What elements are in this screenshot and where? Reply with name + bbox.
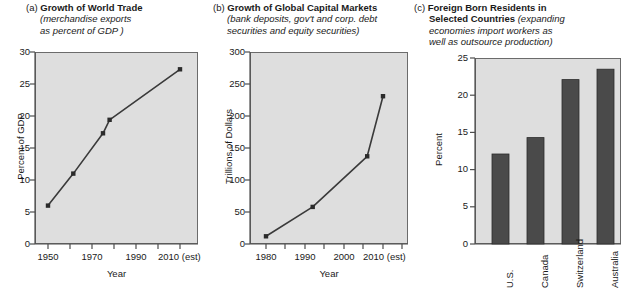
- panel-growth-of-global-capital-markets: (b) Growth of Global Capital Markets (ba…: [205, 0, 410, 288]
- panel-a-series-line: [48, 69, 180, 205]
- panel-b-series-markers: [264, 94, 385, 239]
- bar-label-canada: Canada: [539, 255, 550, 288]
- bar-label-switzerland: Switzerland: [574, 239, 585, 288]
- bar-us: [492, 154, 509, 244]
- bar-australia: [597, 69, 614, 244]
- panel-b-svg: [205, 0, 410, 288]
- bar-switzerland: [562, 80, 579, 244]
- panel-a-series-markers: [46, 67, 182, 208]
- bar-label-us: U.S.: [504, 270, 515, 288]
- panel-b-series-line: [266, 96, 383, 236]
- bar-label-australia: Australia: [609, 251, 620, 288]
- panel-foreign-born-residents: (c) Foreign Born Residents in Selected C…: [410, 0, 621, 288]
- panel-growth-of-world-trade: (a) Growth of World Trade (merchandise e…: [0, 0, 205, 288]
- panel-a-svg: [0, 0, 205, 288]
- panel-c-svg: [410, 0, 621, 288]
- panel-c-bars: [492, 69, 614, 244]
- bar-canada: [527, 138, 544, 244]
